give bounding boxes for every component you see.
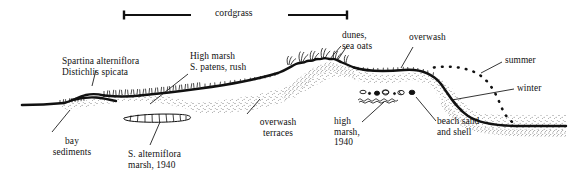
leader-bay-sediments: [52, 110, 70, 132]
buried-marsh-1940-lens: [124, 114, 191, 122]
label-line-1: beach sand: [437, 116, 479, 126]
label-line-2: Distichlis spicata: [62, 67, 128, 77]
leader-marsh-1940: [150, 122, 160, 145]
leader-winter: [452, 89, 514, 100]
label-line-2: and shell: [437, 127, 472, 137]
label-bay-sediments: bay sediments: [27, 136, 117, 157]
label-line-2: terraces: [263, 128, 293, 138]
label-beach-sand-and-shell: beach sand and shell: [437, 116, 479, 137]
leader-overwash: [401, 47, 413, 68]
label-line-2: S. patens, rush: [190, 62, 246, 72]
label-line-2: marsh, 1940: [128, 160, 175, 170]
label-overwash: overwash: [409, 32, 446, 43]
label-line-1: overwash: [260, 117, 297, 127]
label-line-3: 1940: [334, 137, 353, 147]
label-line-1: Spartina alterniflora: [62, 56, 139, 66]
label-high-marsh-patens: High marsh S. patens, rush: [190, 51, 246, 72]
label-dunes-sea-oats: dunes, sea oats: [342, 30, 372, 51]
leader-summer: [481, 62, 502, 73]
label-line-2: sediments: [53, 147, 91, 157]
label-spartina-distichlis: Spartina alterniflora Distichlis spicata: [62, 56, 139, 77]
label-overwash-terraces: overwash terraces: [236, 117, 320, 138]
label-line-2: marsh,: [334, 127, 360, 137]
label-line-2: sea oats: [342, 41, 372, 51]
leader-high-marsh-1940: [362, 102, 384, 122]
cross-section-figure: cordgrass Spartina alterniflora Distichl…: [0, 0, 573, 181]
label-s-alterniflora-marsh-1940: S. alterniflora marsh, 1940: [128, 149, 181, 170]
label-high-marsh-1940: high marsh, 1940: [334, 116, 360, 148]
label-winter: winter: [517, 83, 542, 94]
beach-shell-symbols: [360, 90, 415, 95]
label-line-1: S. alterniflora: [128, 149, 181, 159]
scale-bar-label: cordgrass: [215, 8, 253, 19]
label-line-1: bay: [65, 136, 79, 146]
label-summer: summer: [505, 55, 536, 66]
leader-beach-sand: [416, 97, 436, 121]
label-line-1: high: [334, 116, 351, 126]
label-line-1: High marsh: [190, 51, 235, 61]
label-line-1: dunes,: [342, 30, 367, 40]
buried-high-marsh-1940: [358, 99, 398, 104]
